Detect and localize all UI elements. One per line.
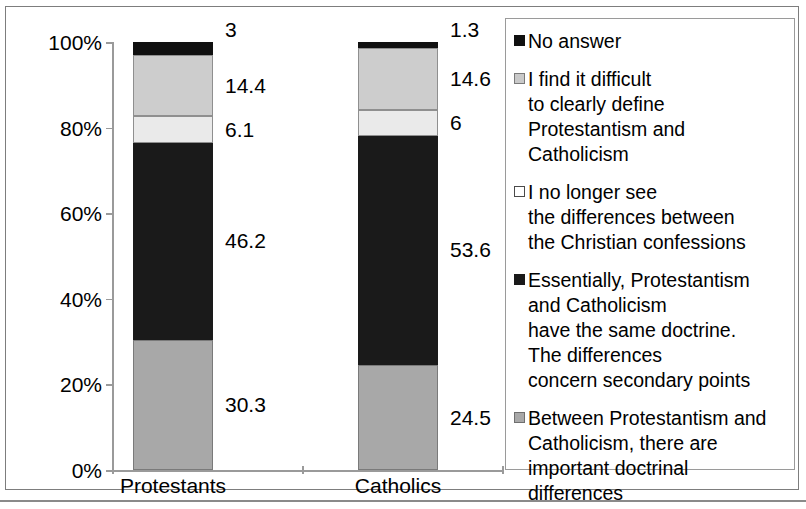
legend-item-line: the Christian confessions bbox=[528, 230, 746, 255]
y-axis-tick-label: 60% bbox=[2, 203, 102, 224]
legend-item-line: The differences bbox=[528, 343, 750, 368]
bar-value-label: 14.6 bbox=[450, 67, 491, 91]
bar-value-label: 14.4 bbox=[225, 74, 266, 98]
x-axis-tick bbox=[502, 466, 504, 474]
legend-item-label: I no longer seethe differences betweenth… bbox=[528, 180, 746, 255]
bar-segment[interactable] bbox=[358, 42, 438, 48]
legend-item-line: important doctrinal differences bbox=[528, 456, 788, 506]
legend-swatch-icon bbox=[514, 412, 525, 423]
stacked-bar[interactable] bbox=[133, 42, 213, 470]
bar-segment[interactable] bbox=[358, 110, 438, 136]
bar-value-label: 53.6 bbox=[450, 238, 491, 262]
legend-item-line: No answer bbox=[528, 29, 621, 54]
bar-segment[interactable] bbox=[358, 136, 438, 365]
chart-figure: 0%20%40%60%80%100% 30.346.26.114.4324.55… bbox=[0, 0, 806, 509]
y-axis-tick bbox=[106, 384, 113, 386]
chart-legend: No answerI find it difficultto clearly d… bbox=[505, 18, 795, 470]
legend-item-line: and Catholicism bbox=[528, 293, 750, 318]
legend-item-line: have the same doctrine. bbox=[528, 318, 750, 343]
bar-segment[interactable] bbox=[133, 42, 213, 55]
legend-item[interactable]: Essentially, Protestantismand Catholicis… bbox=[514, 268, 788, 393]
y-axis-tick bbox=[106, 128, 113, 130]
legend-item-label: Between Protestantism andCatholicism, th… bbox=[528, 406, 788, 506]
stacked-bar[interactable] bbox=[358, 42, 438, 470]
legend-item-label: I find it difficultto clearly defineProt… bbox=[528, 67, 685, 167]
bar-value-label: 30.3 bbox=[225, 393, 266, 417]
y-axis-tick-label: 40% bbox=[2, 288, 102, 309]
category-label-catholics: Catholics bbox=[308, 474, 488, 498]
bar-segment[interactable] bbox=[133, 340, 213, 470]
legend-item-line: to clearly define bbox=[528, 92, 685, 117]
bar-value-label: 6.1 bbox=[225, 118, 254, 142]
legend-swatch-icon bbox=[514, 186, 525, 197]
bar-value-label: 1.3 bbox=[450, 18, 479, 42]
x-axis-line bbox=[112, 470, 502, 472]
bar-value-label: 46.2 bbox=[225, 229, 266, 253]
legend-item-line: concern secondary points bbox=[528, 368, 750, 393]
x-axis-tick bbox=[112, 466, 114, 474]
legend-item[interactable]: I find it difficultto clearly defineProt… bbox=[514, 67, 788, 167]
bar-segment[interactable] bbox=[358, 48, 438, 110]
y-axis-tick-label: 100% bbox=[2, 32, 102, 53]
legend-item[interactable]: I no longer seethe differences betweenth… bbox=[514, 180, 788, 255]
legend-item-line: Essentially, Protestantism bbox=[528, 268, 750, 293]
legend-item-label: Essentially, Protestantismand Catholicis… bbox=[528, 268, 750, 393]
bar-value-label: 24.5 bbox=[450, 406, 491, 430]
y-axis-tick bbox=[106, 42, 113, 44]
legend-item-line: the differences between bbox=[528, 205, 746, 230]
bar-segment[interactable] bbox=[133, 55, 213, 117]
y-axis-tick-label: 80% bbox=[2, 117, 102, 138]
legend-items: No answerI find it difficultto clearly d… bbox=[514, 29, 788, 506]
bar-value-label: 6 bbox=[450, 111, 462, 135]
legend-item-line: Catholicism, there are bbox=[528, 431, 788, 456]
legend-item-line: I no longer see bbox=[528, 180, 746, 205]
bar-segment[interactable] bbox=[133, 116, 213, 142]
bar-value-label: 3 bbox=[225, 18, 237, 42]
legend-swatch-icon bbox=[514, 35, 525, 46]
y-axis-tick bbox=[106, 299, 113, 301]
y-axis-tick bbox=[106, 213, 113, 215]
y-axis-line bbox=[112, 42, 114, 471]
legend-item[interactable]: No answer bbox=[514, 29, 788, 54]
legend-item[interactable]: Between Protestantism andCatholicism, th… bbox=[514, 406, 788, 506]
category-label-protestants: Protestants bbox=[83, 474, 263, 498]
legend-item-line: Catholicism bbox=[528, 142, 685, 167]
legend-swatch-icon bbox=[514, 274, 525, 285]
x-axis-tick bbox=[302, 466, 304, 474]
bar-segment[interactable] bbox=[133, 143, 213, 341]
legend-swatch-icon bbox=[514, 73, 525, 84]
legend-item-line: Protestantism and bbox=[528, 117, 685, 142]
y-axis-tick-label: 20% bbox=[2, 374, 102, 395]
bar-segment[interactable] bbox=[358, 365, 438, 470]
legend-item-label: No answer bbox=[528, 29, 621, 54]
legend-item-line: Between Protestantism and bbox=[528, 406, 788, 431]
legend-item-line: I find it difficult bbox=[528, 67, 685, 92]
